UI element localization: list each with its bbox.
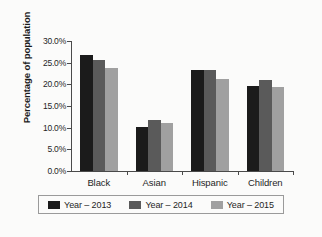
bar — [148, 120, 161, 171]
y-axis-tick-label: 0.0% — [47, 166, 66, 176]
y-axis-tick — [67, 149, 71, 150]
legend-item[interactable]: Year – 2014 — [129, 200, 192, 210]
y-axis-tick-label: 25.0% — [43, 58, 66, 68]
y-axis-tick — [67, 84, 71, 85]
y-axis-line — [71, 41, 72, 171]
chart-legend: Year – 2013Year – 2014Year – 2015 — [38, 195, 284, 214]
bar — [136, 127, 149, 171]
legend-swatch-icon — [129, 201, 141, 209]
bar — [272, 87, 285, 172]
y-axis-tick — [67, 41, 71, 42]
legend-label: Year – 2013 — [64, 200, 111, 210]
bar — [247, 86, 260, 171]
legend-item[interactable]: Year – 2015 — [211, 200, 274, 210]
legend-swatch-icon — [211, 201, 223, 209]
x-axis-category-label: Asian — [143, 177, 166, 188]
y-axis-tick-label: 30.0% — [43, 36, 66, 46]
y-axis-tick — [67, 128, 71, 129]
x-axis-category-label: Children — [248, 177, 283, 188]
y-axis-tick-label: 10.0% — [43, 123, 66, 133]
y-axis-tick — [67, 106, 71, 107]
bar — [259, 80, 272, 171]
y-axis-title: Percentage of population — [21, 3, 32, 133]
x-axis-tick — [238, 171, 239, 175]
x-axis-category-label: Black — [87, 177, 110, 188]
bar — [216, 79, 229, 171]
y-axis-tick-label: 20.0% — [43, 79, 66, 89]
bar — [105, 68, 118, 171]
plot-area: 0.0%5.0%10.0%15.0%20.0%25.0%30.0% BlackA… — [71, 41, 293, 171]
bar-chart-figure: Percentage of population 0.0%5.0%10.0%15… — [0, 0, 322, 237]
x-axis-category-label: Hispanic — [192, 177, 228, 188]
y-axis-tick — [67, 171, 71, 172]
legend-label: Year – 2014 — [145, 200, 192, 210]
bar — [204, 70, 217, 171]
bar — [80, 55, 93, 171]
bar — [191, 70, 204, 171]
bar — [93, 60, 106, 171]
x-axis-tick — [293, 171, 294, 175]
bar — [161, 123, 174, 171]
x-axis-tick — [127, 171, 128, 175]
y-axis-tick-label: 15.0% — [43, 101, 66, 111]
y-axis-tick — [67, 63, 71, 64]
y-axis-tick-label: 5.0% — [47, 144, 66, 154]
x-axis-tick — [182, 171, 183, 175]
legend-item[interactable]: Year – 2013 — [48, 200, 111, 210]
legend-label: Year – 2015 — [227, 200, 274, 210]
legend-swatch-icon — [48, 201, 60, 209]
